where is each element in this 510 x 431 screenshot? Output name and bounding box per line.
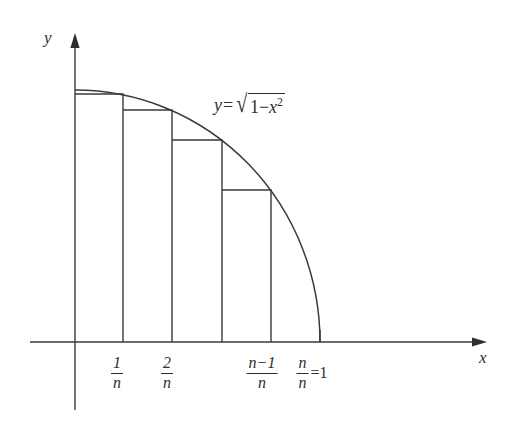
tick-label-n-minus-one-over-n: n−1 n [247, 355, 278, 392]
radicand-exponent: 2 [277, 95, 283, 109]
quarter-circle-curve [75, 90, 320, 342]
rectangle-3 [172, 140, 222, 342]
equals-one-suffix: =1 [310, 364, 327, 382]
fraction: 2 n [161, 355, 173, 392]
rectangle-4 [222, 190, 271, 342]
fraction: 1 n [111, 355, 123, 392]
fraction-numerator: 2 [161, 355, 173, 374]
equation-equals-sign: = [223, 95, 233, 116]
equation-lhs: y [214, 95, 222, 116]
square-root-icon: √ 1−x2 [235, 93, 285, 118]
tick-label-two-over-n: 2 n [161, 355, 173, 392]
radicand: 1−x2 [248, 93, 285, 118]
curve-equation-label: y = √ 1−x2 [214, 93, 285, 118]
tick-label-n-over-n-equals-one: n n =1 [296, 355, 327, 392]
tick-label-one-over-n: 1 n [111, 355, 123, 392]
y-axis-label: y [44, 28, 52, 48]
radicand-variable: x [269, 97, 277, 117]
fraction-denominator: n [113, 374, 121, 392]
rectangle-1 [75, 94, 123, 342]
radicand-one: 1 [250, 97, 259, 117]
rectangle-2 [123, 110, 172, 342]
fraction: n−1 n [247, 355, 278, 392]
fraction-numerator: n [296, 355, 308, 374]
fraction-numerator: n−1 [247, 355, 278, 374]
y-axis-arrowhead [70, 33, 79, 48]
fraction-denominator: n [258, 374, 266, 392]
radical-sign-glyph: √ [237, 94, 248, 119]
fraction: n n [296, 355, 308, 392]
x-axis-arrowhead [472, 337, 487, 346]
fraction-denominator: n [298, 374, 306, 392]
fraction-numerator: 1 [111, 355, 123, 374]
radicand-minus: − [259, 97, 269, 117]
x-axis-label: x [479, 348, 487, 368]
inscribed-rectangles [75, 94, 320, 342]
fraction-denominator: n [163, 374, 171, 392]
